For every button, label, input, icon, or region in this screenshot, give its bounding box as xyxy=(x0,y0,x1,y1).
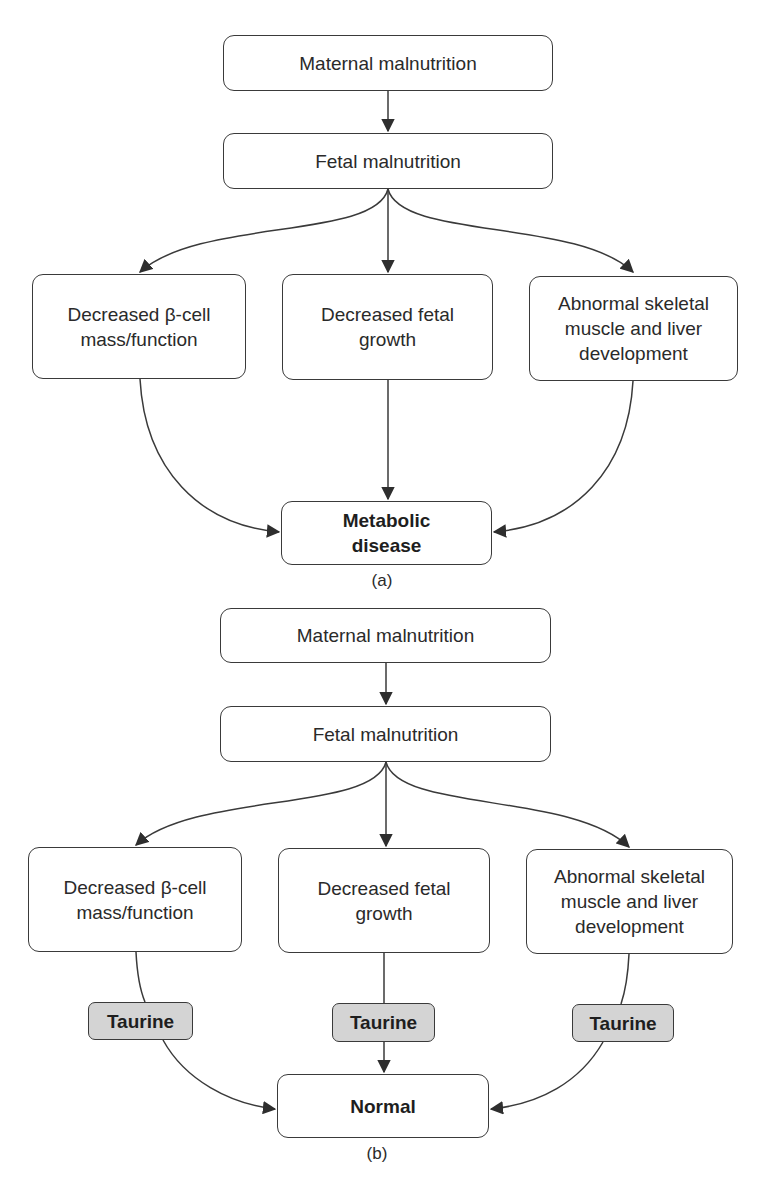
caption-a: (a) xyxy=(352,571,412,591)
taurine-badge-right: Taurine xyxy=(572,1004,674,1042)
arrow-fetal-to-skeletal-a xyxy=(388,189,633,272)
node-label: Normal xyxy=(350,1094,415,1119)
node-maternal-malnutrition-b: Maternal malnutrition xyxy=(220,608,551,663)
diagram-canvas: Maternal malnutrition Fetal malnutrition… xyxy=(0,0,763,1188)
node-fetal-malnutrition-a: Fetal malnutrition xyxy=(223,133,553,189)
node-label: Decreased β-cell mass/function xyxy=(68,302,211,352)
node-metabolic-disease: Metabolic disease xyxy=(281,501,492,565)
caption-b: (b) xyxy=(347,1144,407,1164)
arrow-fetal-to-beta-a xyxy=(140,189,388,272)
arrow-taurine-left-to-outcome-b xyxy=(163,1040,275,1109)
node-label: Decreased β-cell mass/function xyxy=(64,875,207,925)
taurine-badge-middle: Taurine xyxy=(332,1003,435,1042)
node-fetal-growth-b: Decreased fetal growth xyxy=(278,848,490,953)
arrow-taurine-right-to-outcome-b xyxy=(491,1042,603,1109)
node-label: Metabolic disease xyxy=(343,508,431,558)
line-beta-to-taurine-b xyxy=(136,952,145,1002)
node-fetal-malnutrition-b: Fetal malnutrition xyxy=(220,706,551,762)
node-label: Fetal malnutrition xyxy=(315,149,461,174)
node-label: Decreased fetal growth xyxy=(321,302,454,352)
node-label: Abnormal skeletal muscle and liver devel… xyxy=(554,864,705,939)
line-skeletal-to-taurine-b xyxy=(621,954,629,1004)
node-beta-cell-a: Decreased β-cell mass/function xyxy=(32,274,246,379)
arrow-skeletal-to-outcome-a xyxy=(494,381,633,532)
node-normal-outcome: Normal xyxy=(277,1074,489,1138)
node-label: Maternal malnutrition xyxy=(299,51,476,76)
node-label: Abnormal skeletal muscle and liver devel… xyxy=(558,291,709,366)
node-maternal-malnutrition-a: Maternal malnutrition xyxy=(223,35,553,91)
node-skeletal-liver-a: Abnormal skeletal muscle and liver devel… xyxy=(529,276,738,381)
node-skeletal-liver-b: Abnormal skeletal muscle and liver devel… xyxy=(526,849,733,954)
arrow-fetal-to-skeletal-b xyxy=(386,762,629,847)
taurine-label: Taurine xyxy=(350,1010,417,1035)
taurine-badge-left: Taurine xyxy=(88,1002,193,1040)
taurine-label: Taurine xyxy=(107,1009,174,1034)
arrow-fetal-to-beta-b xyxy=(136,762,386,845)
node-fetal-growth-a: Decreased fetal growth xyxy=(282,274,493,380)
node-label: Maternal malnutrition xyxy=(297,623,474,648)
taurine-label: Taurine xyxy=(589,1011,656,1036)
arrow-beta-to-outcome-a xyxy=(140,379,279,532)
node-label: Fetal malnutrition xyxy=(313,722,459,747)
node-beta-cell-b: Decreased β-cell mass/function xyxy=(28,847,242,952)
node-label: Decreased fetal growth xyxy=(317,876,450,926)
